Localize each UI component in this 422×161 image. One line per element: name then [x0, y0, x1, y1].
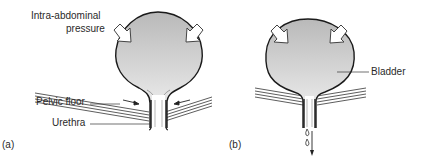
label-intra-abdominal: Intra-abdominal — [31, 10, 100, 21]
caption-b: (b) — [229, 139, 241, 150]
diagram-canvas — [0, 0, 422, 161]
panel-a — [35, 12, 212, 130]
label-urethra: Urethra — [52, 117, 85, 128]
label-bladder: Bladder — [371, 66, 405, 77]
urine-drips — [306, 129, 309, 146]
flow-arrow — [310, 131, 314, 156]
label-pelvic-floor: Pelvic floor — [36, 96, 85, 107]
panel-b — [255, 19, 369, 156]
label-pressure: pressure — [66, 23, 105, 34]
caption-a: (a) — [2, 139, 14, 150]
